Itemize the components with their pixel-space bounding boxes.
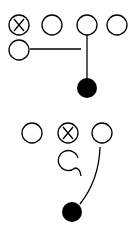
ball-carrier-filled-circle: [77, 78, 97, 98]
play-diagram: [0, 0, 134, 227]
marked-player-icon: [9, 15, 29, 35]
player-circle: [92, 123, 112, 143]
player-circle: [22, 123, 42, 143]
ball-carrier-filled-circle: [62, 202, 82, 222]
marked-player-icon: [58, 123, 78, 143]
player-circle: [9, 40, 29, 60]
player-circle: [77, 15, 97, 35]
player-circle: [42, 15, 62, 35]
route-curve: [80, 147, 100, 204]
curl-route: [58, 151, 81, 176]
player-circle: [107, 15, 127, 35]
top-play: [9, 15, 127, 98]
bottom-play: [22, 123, 112, 222]
